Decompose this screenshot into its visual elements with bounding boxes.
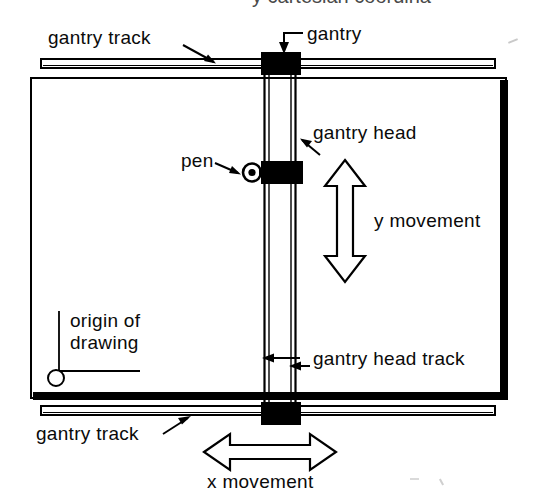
bed-right-edge-shadow bbox=[500, 80, 508, 400]
origin-circle bbox=[48, 370, 64, 386]
label-gantry: gantry bbox=[307, 23, 362, 44]
label-x-movement: x movement bbox=[207, 471, 313, 492]
label-origin-of-drawing-line2: drawing bbox=[70, 332, 139, 354]
leader-gantry bbox=[279, 33, 303, 54]
label-gantry-track-bottom: gantry track bbox=[36, 423, 139, 444]
gantry-carriage-top bbox=[261, 52, 301, 75]
gantry-plotter-diagram: y cartesian coordina bbox=[0, 0, 533, 501]
label-origin-of-drawing-line1: origin of bbox=[70, 310, 140, 332]
label-y-movement: y movement bbox=[374, 210, 480, 231]
bed-bottom-edge-shadow bbox=[33, 392, 508, 400]
label-pen: pen bbox=[181, 150, 214, 171]
gantry-carriage-bottom bbox=[261, 402, 301, 425]
x-movement-arrow bbox=[204, 434, 336, 470]
leader-gantry-track-bottom bbox=[163, 416, 191, 434]
label-gantry-head: gantry head bbox=[313, 122, 417, 143]
gantry-head-carriage bbox=[261, 161, 303, 184]
scan-speck bbox=[410, 478, 419, 480]
label-gantry-head-track: gantry head track bbox=[313, 348, 465, 369]
label-gantry-track-top: gantry track bbox=[48, 27, 151, 48]
